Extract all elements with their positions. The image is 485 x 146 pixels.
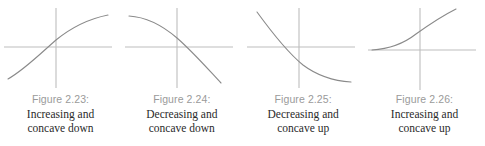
figure-number-label: Figure 2.25: <box>243 92 364 106</box>
plot-svg-2 <box>121 0 242 92</box>
caption-line-1: Decreasing and <box>121 107 242 121</box>
caption-block-4: Figure 2.26: Increasing and concave up <box>364 92 485 135</box>
caption-line-1: Increasing and <box>364 107 485 121</box>
plot-svg-1 <box>0 0 121 92</box>
figure-panel-1: Figure 2.23: Increasing and concave down <box>0 0 121 146</box>
plot-area-1 <box>0 0 121 92</box>
plot-area-4 <box>364 0 485 92</box>
plot-svg-3 <box>243 0 364 92</box>
caption-line-1: Increasing and <box>0 107 121 121</box>
figure-number-label: Figure 2.24: <box>121 92 242 106</box>
caption-block-1: Figure 2.23: Increasing and concave down <box>0 92 121 135</box>
caption-block-2: Figure 2.24: Decreasing and concave down <box>121 92 242 135</box>
plot-area-3 <box>243 0 364 92</box>
plot-svg-4 <box>364 0 485 92</box>
figure-number-label: Figure 2.26: <box>364 92 485 106</box>
plot-area-2 <box>121 0 242 92</box>
caption-line-1: Decreasing and <box>243 107 364 121</box>
figure-panel-3: Figure 2.25: Decreasing and concave up <box>243 0 364 146</box>
figure-strip: Figure 2.23: Increasing and concave down… <box>0 0 485 146</box>
figure-panel-4: Figure 2.26: Increasing and concave up <box>364 0 485 146</box>
caption-line-2: concave up <box>243 121 364 135</box>
caption-line-2: concave down <box>121 121 242 135</box>
caption-line-2: concave up <box>364 121 485 135</box>
figure-panel-2: Figure 2.24: Decreasing and concave down <box>121 0 242 146</box>
figure-number-label: Figure 2.23: <box>0 92 121 106</box>
curve-decreasing-concave-down <box>129 16 221 83</box>
curve-increasing-concave-up <box>372 9 456 50</box>
caption-line-2: concave down <box>0 121 121 135</box>
caption-block-3: Figure 2.25: Decreasing and concave up <box>243 92 364 135</box>
